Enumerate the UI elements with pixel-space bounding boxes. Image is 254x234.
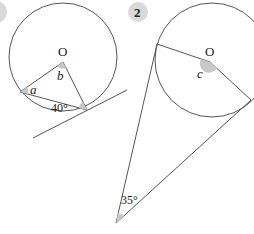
badge-1-circle [0, 1, 7, 23]
tangent-line-1 [33, 90, 127, 138]
angle-35-label: 35° [121, 193, 138, 207]
radius-upper [157, 44, 210, 62]
center-label-2: O [205, 44, 214, 59]
angle-c-label: c [197, 66, 203, 81]
geometry-diagram: O a b 40° 2 O c 35° [0, 0, 254, 234]
angle-35-shade [116, 213, 124, 223]
badge-2-label: 2 [134, 5, 141, 20]
angle-a-label: a [30, 82, 37, 97]
figure-1: O a b 40° [0, 1, 127, 138]
center-label-1: O [58, 44, 67, 59]
figure-2: 2 O c 35° [116, 2, 254, 223]
angle-40-label: 40° [51, 101, 68, 115]
angle-b-label: b [57, 68, 64, 83]
